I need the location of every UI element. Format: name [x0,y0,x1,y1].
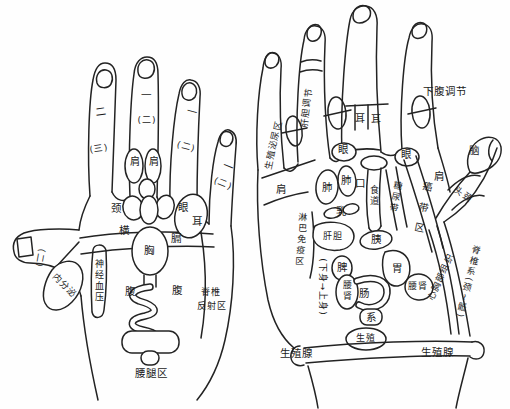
right-intestine-label: 肠 [359,288,370,299]
right-lung-label-2: 肺 [341,175,352,186]
left-diaphragm-label: 膈 [171,233,182,244]
left-shoulder-label-2: 肩 [149,157,160,167]
right-body-direction-label: (下身→上身) [318,258,327,316]
right-esophagus-label: 食道 [370,185,379,207]
left-spine-reflex-label-line2: 反射区 [197,302,227,311]
right-gonad-label-2: 生殖腺 [421,347,454,358]
right-waist-kidney-label-1: 腰肾 [343,280,352,302]
left-abdomen-label-2: 腹 [172,285,183,296]
left-middle-mark-2: (二) [137,116,156,125]
right-mouth-label: 口 [355,178,366,189]
right-reproduction-label: 生殖 [356,334,376,343]
right-system-label: 系 [366,312,377,323]
right-ear-label-1: 耳 [355,114,366,124]
left-chest-label: 胸 [144,245,155,256]
right-spleen-label: 脾 [337,262,348,273]
left-abdomen-label-1: 腹 [125,286,136,297]
left-spine-reflex-label-line1: 脊椎 [201,288,221,297]
right-shoulder-label-2: 肩 [434,171,445,182]
right-ear-label-2: 耳 [371,115,382,125]
right-breast-label: 乳 [336,206,347,217]
left-thumb-mark: (二) [34,248,46,268]
right-shoulder-label-1: 肩 [276,184,287,195]
right-liver-gb-label: 肝胆 [323,232,343,241]
right-brain-label: 脑 [469,145,480,156]
right-eye-label-1: 眼 [338,144,349,155]
left-nerve-bp-label: 神经血压 [95,259,104,303]
left-transverse-label: 横 [119,225,130,236]
right-eye-label-2: 眼 [401,149,412,160]
left-index-mark-1: 二 [95,106,107,118]
left-waist-leg-label: 腰腿区 [135,368,168,379]
hand-reflexology-diagram: 二 (三) 一 (二) 一 (二) 一 (二) (二) 肩 肩 颈 眼 耳 横 … [0,0,510,409]
right-lower-abdomen-regulation-label: 下腹调节 [423,86,467,97]
waist-leg-region [122,331,179,353]
left-neck-label: 颈 [111,203,122,214]
left-eye-label: 眼 [178,202,189,213]
right-pancreas-label: 胰 [371,234,382,245]
left-middle-mark-1: 一 [141,90,152,101]
right-stomach-label: 胃 [392,263,403,274]
right-gonad-label-1: 生殖腺 [280,348,313,359]
left-shoulder-label-1: 肩 [130,157,141,167]
right-lung-label-1: 肺 [322,182,333,193]
right-waist-kidney-label-2: 腰肾 [408,282,428,291]
left-ear-label: 耳 [192,216,203,227]
